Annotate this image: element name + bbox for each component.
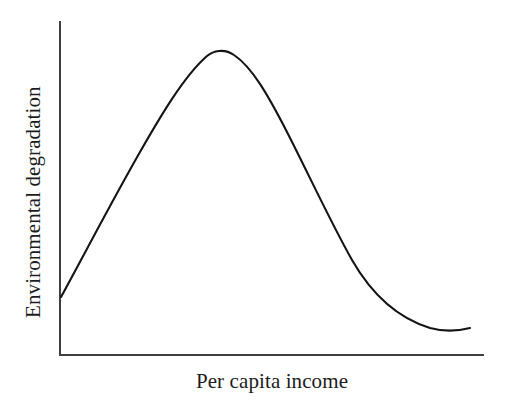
chart-figure: Environmental degradation Per capita inc… [0, 0, 508, 405]
chart-plot-area [0, 0, 508, 405]
y-axis-label: Environmental degradation [20, 18, 46, 318]
kuznets-curve-line [61, 51, 470, 331]
x-axis-label: Per capita income [60, 368, 484, 394]
